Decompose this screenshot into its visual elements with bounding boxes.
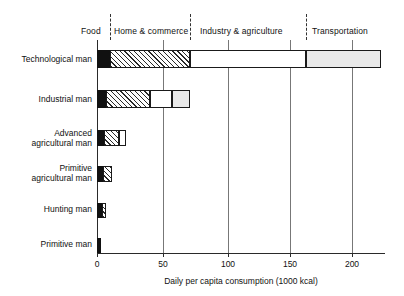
x-tick-150 [290, 253, 291, 257]
x-tick-100 [228, 253, 229, 257]
bar-segment-food [97, 90, 106, 108]
bar-segment-home-commerce [110, 50, 190, 68]
row-label-hunting-man: Hunting man [0, 204, 92, 214]
row-label-line1: Advanced [0, 128, 92, 138]
x-tick-label-50: 50 [143, 259, 183, 269]
row-label-line1: Industrial man [0, 94, 92, 104]
bar-segment-industry-agriculture [150, 90, 172, 108]
bar-segment-home-commerce [106, 90, 150, 108]
bar-primitive-man [97, 238, 382, 253]
row-label-industrial-man: Industrial man [0, 94, 92, 104]
bar-primitive-agricultural-man [97, 166, 382, 182]
row-label-line1: Hunting man [0, 204, 92, 214]
x-tick-200 [352, 253, 353, 257]
category-divider-food [110, 14, 111, 40]
row-label-primitive-man: Primitive man [0, 239, 92, 249]
bar-segment-food [97, 238, 101, 253]
bar-industrial-man [97, 90, 382, 108]
bar-technological-man [97, 50, 382, 68]
category-label-industry-agriculture: Industry & agriculture [200, 26, 283, 36]
bar-segment-food [97, 50, 110, 68]
x-tick-label-150: 150 [270, 259, 310, 269]
row-label-line1: Primitive [0, 163, 92, 173]
row-label-advanced-agricultural-man: Advanced agricultural man [0, 128, 92, 148]
row-label-line2: agricultural man [0, 138, 92, 148]
bar-hunting-man [97, 203, 382, 218]
x-tick-label-200: 200 [332, 259, 372, 269]
category-label-home-commerce: Home & commerce [114, 26, 188, 36]
bar-segment-home-commerce [104, 130, 119, 146]
x-tick-50 [163, 253, 164, 257]
bar-segment-home-commerce [103, 166, 112, 182]
category-divider-industry-agriculture [306, 14, 307, 40]
category-label-food: Food [81, 26, 101, 36]
gridline-50 [163, 40, 164, 253]
row-label-line1: Technological man [0, 54, 92, 64]
row-label-line2: agricultural man [0, 173, 92, 183]
gridline-100 [228, 40, 229, 253]
bar-segment-transportation [306, 50, 381, 68]
bar-segment-food [97, 130, 104, 146]
row-label-technological-man: Technological man [0, 54, 92, 64]
bar-segment-industry-agriculture [119, 130, 126, 146]
bar-segment-industry-agriculture [190, 50, 306, 68]
x-tick-label-100: 100 [208, 259, 248, 269]
bar-advanced-agricultural-man [97, 130, 382, 146]
row-label-primitive-agricultural-man: Primitive agricultural man [0, 163, 92, 183]
chart-figure: Food Home & commerce Industry & agricult… [0, 0, 404, 296]
x-tick-0 [97, 253, 98, 257]
bar-segment-transportation [172, 90, 190, 108]
gridline-200 [352, 40, 353, 253]
y-axis-line [97, 40, 98, 253]
bar-segment-home-commerce [102, 203, 106, 218]
gridline-150 [290, 40, 291, 253]
row-label-line1: Primitive man [0, 239, 92, 249]
x-axis-title: Daily per capita consumption (1000 kcal) [97, 276, 385, 287]
x-axis-line [97, 253, 385, 254]
x-tick-label-0: 0 [77, 259, 117, 269]
category-divider-home-commerce [190, 14, 191, 40]
category-label-transportation: Transportation [312, 26, 368, 36]
